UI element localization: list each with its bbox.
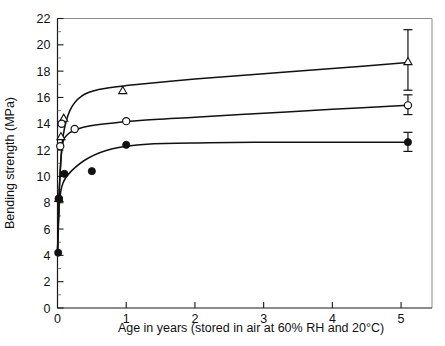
y-tick-label-18: 18 — [37, 65, 51, 79]
marker-filled-circle — [123, 141, 130, 148]
y-axis-title: Bending strength (MPa) — [3, 97, 17, 229]
axis-ticks — [58, 19, 402, 309]
x-axis-title: Age in years (stored in air at 60% RH an… — [118, 321, 384, 335]
y-tick-label-8: 8 — [44, 196, 51, 210]
marker-filled-circle — [88, 168, 95, 175]
marker-filled-circle — [55, 249, 62, 256]
marker-filled-circle — [55, 195, 62, 202]
error-bars — [403, 30, 412, 152]
y-tick-label-20: 20 — [37, 38, 51, 52]
marker-open-circle — [71, 125, 78, 132]
y-tick-label-16: 16 — [37, 91, 51, 105]
y-tick-label-6: 6 — [44, 223, 51, 237]
marker-open-circle — [404, 102, 411, 109]
axis-lines — [58, 19, 433, 309]
y-tick-label-4: 4 — [44, 249, 51, 263]
marker-open-triangle — [404, 58, 412, 65]
marker-open-circle — [57, 143, 64, 150]
y-tick-label-14: 14 — [37, 117, 51, 131]
marker-open-circle — [123, 118, 130, 125]
bending-strength-chart: 0246810121416182022012345 Age in years (… — [0, 0, 445, 346]
y-tick-label-10: 10 — [37, 170, 51, 184]
plot-frame — [58, 19, 433, 309]
curve-triangle-series — [58, 63, 408, 253]
x-tick-label-5: 5 — [398, 312, 405, 326]
y-tick-label-12: 12 — [37, 144, 51, 158]
y-tick-label-0: 0 — [44, 302, 51, 316]
y-tick-label-22: 22 — [37, 12, 51, 26]
marker-filled-circle — [61, 170, 68, 177]
marker-open-triangle — [119, 86, 127, 93]
y-tick-label-2: 2 — [44, 275, 51, 289]
curve-filled-circle-series — [58, 142, 408, 253]
figure-container: 0246810121416182022012345 Age in years (… — [0, 0, 445, 346]
plot-box-outline — [58, 19, 433, 309]
marker-filled-circle — [404, 139, 411, 146]
x-tick-label-0: 0 — [54, 312, 61, 326]
marker-open-circle — [58, 120, 65, 127]
fitted-curves — [58, 63, 408, 253]
curve-open-circle-series — [58, 105, 408, 252]
